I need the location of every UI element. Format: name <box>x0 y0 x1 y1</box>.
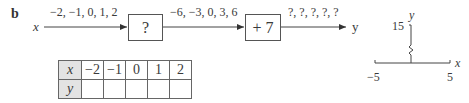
input-values: −2, −1, 0, 1, 2 <box>50 5 118 20</box>
x-value-cell: −1 <box>104 61 126 80</box>
y-value-cell[interactable] <box>82 80 104 99</box>
x-value-cell: −2 <box>82 61 104 80</box>
x-value-cell: 0 <box>126 61 148 80</box>
output-values: ?, ?, ?, ?, ? <box>288 5 339 20</box>
add-seven-label: + 7 <box>252 19 273 37</box>
input-variable-x: x <box>33 19 39 35</box>
y-axis-label: y <box>409 8 414 23</box>
y-max-tick-label: 15 <box>392 19 404 34</box>
x-axis-label: x <box>455 56 460 71</box>
y-value-cell[interactable] <box>104 80 126 99</box>
table-row-y: y <box>59 80 192 99</box>
y-value-cell[interactable] <box>126 80 148 99</box>
x-value-cell: 1 <box>148 61 170 80</box>
table-row-x: x −2 −1 0 1 2 <box>59 61 192 80</box>
axes-sketch <box>375 25 450 63</box>
y-value-cell[interactable] <box>170 80 192 99</box>
x-max-tick-label: 5 <box>447 70 453 85</box>
add-seven-box: + 7 <box>245 14 281 41</box>
row-header-y: y <box>59 80 82 99</box>
x-min-tick-label: −5 <box>367 70 380 85</box>
middle-values: −6, −3, 0, 3, 6 <box>170 5 238 20</box>
table-of-values: x −2 −1 0 1 2 y <box>58 60 192 99</box>
unknown-operation-box: ? <box>128 14 163 41</box>
unknown-operation-label: ? <box>142 19 149 37</box>
output-variable-y: y <box>352 19 359 35</box>
x-value-cell: 2 <box>170 61 192 80</box>
y-value-cell[interactable] <box>148 80 170 99</box>
row-header-x: x <box>59 61 82 80</box>
